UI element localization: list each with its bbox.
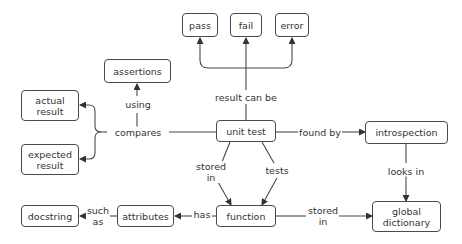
node-unit-test[interactable]: unit test bbox=[216, 120, 276, 142]
edge-to-expected-result bbox=[80, 132, 101, 159]
node-docstring[interactable]: docstring bbox=[21, 205, 79, 227]
edge-to-actual-result bbox=[80, 105, 101, 132]
edge-to-pass bbox=[200, 38, 246, 68]
node-pass[interactable]: pass bbox=[182, 13, 218, 37]
node-actual-result[interactable]: actual result bbox=[21, 90, 79, 121]
node-function[interactable]: function bbox=[216, 205, 276, 227]
edge-label-tests: tests bbox=[264, 165, 289, 176]
node-fail[interactable]: fail bbox=[230, 13, 262, 37]
edge-stored-in-lower bbox=[218, 182, 231, 205]
edge-label-stored-in-function: stored in bbox=[307, 205, 339, 227]
edge-to-error bbox=[246, 38, 292, 68]
node-introspection[interactable]: introspection bbox=[365, 121, 448, 144]
edge-tests-lower bbox=[262, 178, 277, 205]
edge-label-has: has bbox=[193, 209, 212, 220]
edge-label-looks-in: looks in bbox=[387, 166, 425, 177]
concept-map-canvas: pass fail error assertions actual result… bbox=[0, 0, 462, 244]
edge-stored-in-upper bbox=[222, 142, 230, 162]
node-attributes[interactable]: attributes bbox=[117, 205, 174, 227]
edge-label-found-by: found by bbox=[298, 127, 342, 138]
edge-label-such-as: such as bbox=[86, 205, 110, 227]
edge-label-stored-in-unit: stored in bbox=[195, 161, 227, 183]
node-expected-result[interactable]: expected result bbox=[21, 144, 79, 175]
node-global-dictionary[interactable]: global dictionary bbox=[372, 201, 441, 232]
edge-label-result-can-be: result can be bbox=[214, 92, 278, 103]
node-error[interactable]: error bbox=[275, 13, 309, 37]
edge-label-using: using bbox=[124, 99, 152, 110]
edge-tests-upper bbox=[262, 142, 274, 163]
edge-label-compares: compares bbox=[114, 127, 163, 138]
node-assertions[interactable]: assertions bbox=[104, 59, 171, 83]
